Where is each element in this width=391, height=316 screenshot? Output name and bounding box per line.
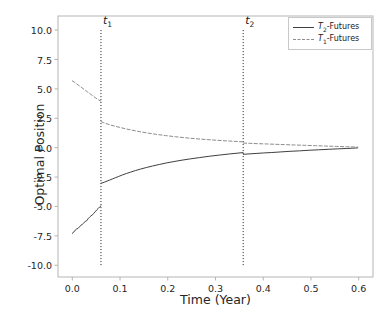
legend-label-t1-futures: T1-Futures xyxy=(318,34,359,45)
y-tick-label: 2.5 xyxy=(0,113,52,124)
x-tick-label: 0.6 xyxy=(351,283,366,294)
x-tick-label: 0.1 xyxy=(112,283,127,294)
x-tick-label: 0.2 xyxy=(160,283,175,294)
x-tick-label: 0.4 xyxy=(256,283,271,294)
y-tick-label: -10.0 xyxy=(0,260,52,271)
legend-swatch-dashed xyxy=(293,39,314,40)
annotation-label-t1: t1 xyxy=(103,14,112,29)
legend-box: T2-Futures T1-Futures xyxy=(288,17,372,50)
legend-swatch-solid xyxy=(293,27,314,28)
y-tick-label: -5.0 xyxy=(0,201,52,212)
y-axis-label: Optimal Position xyxy=(32,70,47,240)
legend-item-t2-futures: T2-Futures xyxy=(292,22,367,33)
chart-figure: Optimal Position Time (Year) 0.00.10.20.… xyxy=(0,0,391,316)
y-tick-label: -7.5 xyxy=(0,230,52,241)
x-axis-label: Time (Year) xyxy=(58,292,373,307)
y-tick-label: 0.0 xyxy=(0,142,52,153)
x-tick-label: 0.5 xyxy=(303,283,318,294)
y-tick-label: -2.5 xyxy=(0,172,52,183)
y-tick-label: 7.5 xyxy=(0,54,52,65)
annotation-label-t2: t2 xyxy=(245,14,254,29)
y-tick-label: 5.0 xyxy=(0,83,52,94)
legend-label-t2-futures: T2-Futures xyxy=(318,22,359,33)
x-tick-label: 0.3 xyxy=(208,283,223,294)
y-tick-label: 10.0 xyxy=(0,25,52,36)
legend-item-t1-futures: T1-Futures xyxy=(292,34,367,45)
x-tick-label: 0.0 xyxy=(65,283,80,294)
